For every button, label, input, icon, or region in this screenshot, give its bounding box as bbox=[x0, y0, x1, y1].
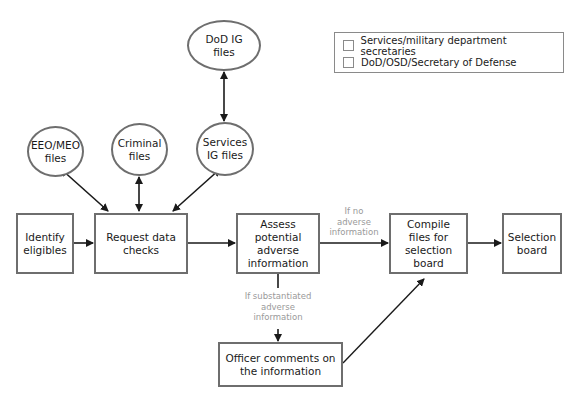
node-services-ig-files: Services IG files bbox=[196, 122, 254, 176]
legend-swatch-services bbox=[343, 40, 354, 51]
node-identify-eligibles: Identify eligibles bbox=[16, 213, 74, 274]
node-request-data-checks: Request data checks bbox=[94, 213, 188, 274]
node-officer-comments: Officer comments on the information bbox=[218, 342, 343, 387]
arrow-eeo-request bbox=[61, 169, 108, 211]
legend-label-dod: DoD/OSD/Secretary of Defense bbox=[361, 57, 517, 68]
node-eeo-meo-files: EEO/MEO files bbox=[27, 126, 84, 177]
legend: Services/military department secretaries… bbox=[334, 32, 564, 73]
legend-label-services: Services/military department secretaries bbox=[361, 35, 555, 57]
legend-swatch-dod bbox=[343, 57, 354, 68]
node-assess-adverse-information: Assess potential adverse information bbox=[236, 213, 320, 274]
node-selection-board: Selection board bbox=[502, 213, 562, 274]
arrow-officer-compile bbox=[343, 279, 424, 363]
node-compile-files: Compile files for selection board bbox=[389, 213, 468, 274]
legend-item-dod: DoD/OSD/Secretary of Defense bbox=[343, 55, 555, 70]
node-criminal-files: Criminal files bbox=[111, 123, 168, 176]
condition-no-adverse: If no adverse information bbox=[320, 206, 388, 238]
arrow-servicesig-request bbox=[173, 169, 220, 211]
node-dod-ig-files: DoD IG files bbox=[187, 20, 261, 71]
legend-item-services: Services/military department secretaries bbox=[343, 38, 555, 53]
condition-substantiated: If substantiated adverse information bbox=[238, 291, 318, 323]
